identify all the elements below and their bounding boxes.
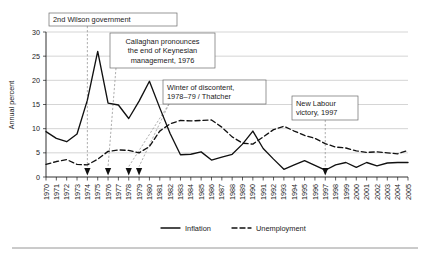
- x-tick-label-1990: 1990: [248, 184, 257, 200]
- x-tick-label-1977: 1977: [114, 184, 123, 200]
- annotation-line-callaghan-keynesian-2: management, 1976: [131, 56, 195, 65]
- x-tick-label-1973: 1973: [73, 184, 82, 200]
- event-marker-1976: [105, 168, 111, 176]
- y-tick-label-5: 5: [36, 148, 40, 157]
- x-tick-label-1989: 1989: [238, 184, 247, 200]
- x-tick-label-1984: 1984: [186, 184, 195, 200]
- y-tick-label-0: 0: [36, 173, 40, 182]
- x-tick-label-2001: 2001: [362, 184, 371, 200]
- x-tick-label-2005: 2005: [404, 184, 413, 200]
- x-tick-label-1980: 1980: [145, 184, 154, 200]
- x-tick-label-1974: 1974: [83, 184, 92, 200]
- x-tick-label-1992: 1992: [269, 184, 278, 200]
- annotation-boxes: 2nd Wilson governmentCallaghan pronounce…: [49, 13, 358, 120]
- y-tick-label-30: 30: [32, 28, 40, 37]
- x-tick-label-1981: 1981: [155, 184, 164, 200]
- x-tick-label-1975: 1975: [93, 184, 102, 200]
- x-tick-label-1970: 1970: [42, 184, 51, 200]
- x-tick-label-2002: 2002: [373, 184, 382, 200]
- x-tick-label-1972: 1972: [62, 184, 71, 200]
- x-tick-label-1991: 1991: [259, 184, 268, 200]
- event-marker-1979: [136, 168, 142, 176]
- series-line-unemployment: [46, 120, 408, 165]
- y-tick-label-15: 15: [32, 100, 40, 109]
- y-tick-label-10: 10: [32, 124, 40, 133]
- annotation-line-winter-of-discontent-1: 1978–79 / Thatcher: [167, 92, 232, 101]
- x-tick-label-1996: 1996: [311, 184, 320, 200]
- x-tick-label-1999: 1999: [342, 184, 351, 200]
- x-tick-label-1997: 1997: [321, 184, 330, 200]
- annotation-line-second-wilson-government-0: 2nd Wilson government: [53, 15, 131, 24]
- event-marker-1974: [84, 168, 90, 176]
- y-axis-title: Annual percent: [7, 81, 16, 129]
- x-tick-label-1979: 1979: [135, 184, 144, 200]
- x-axis-ticks: [46, 177, 408, 181]
- x-tick-label-1986: 1986: [207, 184, 216, 200]
- x-tick-label-1988: 1988: [228, 184, 237, 200]
- x-tick-label-1985: 1985: [197, 184, 206, 200]
- annotation-line-callaghan-keynesian-1: the end of Keynesian: [128, 46, 197, 55]
- x-tick-label-1982: 1982: [166, 184, 175, 200]
- x-tick-label-1976: 1976: [104, 184, 113, 200]
- x-axis-tick-labels: 1970197119721973197419751976197719781979…: [42, 184, 413, 200]
- x-tick-label-2003: 2003: [383, 184, 392, 200]
- inflation-unemployment-line-chart: 051015202530 197019711972197319741975197…: [0, 0, 430, 255]
- event-marker-1978: [126, 168, 132, 176]
- annotation-line-winter-of-discontent-0: Winter of discontent,: [167, 83, 234, 92]
- annotation-line-new-labour-victory-0: New Labour: [296, 99, 336, 108]
- x-tick-label-1987: 1987: [217, 184, 226, 200]
- legend-label-inflation: Inflation: [185, 224, 211, 233]
- legend: Inflation Unemployment: [161, 224, 306, 233]
- x-tick-label-2004: 2004: [393, 184, 402, 200]
- legend-label-unemployment: Unemployment: [256, 224, 306, 233]
- x-tick-label-1993: 1993: [279, 184, 288, 200]
- annotation-line-callaghan-keynesian-0: Callaghan pronounces: [126, 37, 200, 46]
- x-tick-label-1983: 1983: [176, 184, 185, 200]
- x-tick-label-1998: 1998: [331, 184, 340, 200]
- y-tick-label-20: 20: [32, 76, 40, 85]
- x-tick-label-1995: 1995: [300, 184, 309, 200]
- y-tick-label-25: 25: [32, 52, 40, 61]
- y-axis-ticks: 051015202530: [32, 28, 46, 182]
- x-tick-label-1971: 1971: [52, 184, 61, 200]
- event-arrow-markers: [84, 168, 328, 176]
- chart-figure: 051015202530 197019711972197319741975197…: [0, 0, 430, 255]
- x-tick-label-1978: 1978: [124, 184, 133, 200]
- annotation-line-new-labour-victory-1: victory, 1997: [296, 108, 337, 117]
- x-tick-label-1994: 1994: [290, 184, 299, 200]
- x-tick-label-2000: 2000: [352, 184, 361, 200]
